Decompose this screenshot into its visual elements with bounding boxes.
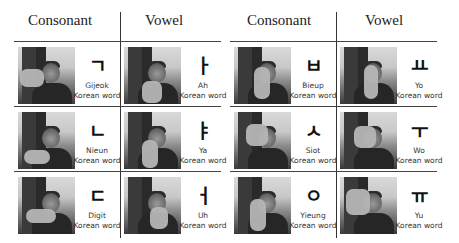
jamo-subtitle: Korean word: [288, 156, 338, 166]
jamo-glyph: ㄴ: [77, 116, 117, 143]
sign-table-left: Consonant Vowel ㄱ Gijeok Korean word ㅏ A…: [14, 0, 221, 243]
sign-table-right: Consonant Vowel ㅂ Bieup Korean word ㅛ Yo…: [230, 0, 437, 243]
sign-photo: [234, 112, 291, 169]
sign-cell-digit: ㄷ Digit Korean word: [14, 171, 118, 235]
sign-photo: [124, 47, 181, 104]
jamo-name: Yo: [396, 81, 442, 91]
jamo-glyph: ㅏ: [183, 51, 223, 78]
jamo-name: Siot: [290, 146, 336, 156]
jamo-name: Digit: [74, 211, 120, 221]
sign-photo: [124, 177, 181, 234]
sign-cell-gijeok: ㄱ Gijeok Korean word: [14, 41, 118, 105]
jamo-name: Ya: [180, 146, 226, 156]
sign-photo: [234, 47, 291, 104]
jamo-subtitle: Korean word: [72, 221, 122, 231]
jamo-subtitle: Korean word: [178, 91, 228, 101]
jamo-subtitle: Korean word: [394, 91, 444, 101]
sign-photo: [340, 177, 397, 234]
jamo-name: Wo: [396, 146, 442, 156]
jamo-glyph: ㄷ: [77, 181, 117, 208]
jamo-subtitle: Korean word: [288, 91, 338, 101]
sign-cell-nieun: ㄴ Nieun Korean word: [14, 106, 118, 170]
jamo-glyph: ㅛ: [399, 51, 439, 78]
jamo-glyph: ㅇ: [293, 181, 333, 208]
sign-photo: [234, 177, 291, 234]
sign-photo: [18, 177, 75, 234]
jamo-name: Gijeok: [74, 81, 120, 91]
jamo-glyph: ㅜ: [399, 116, 439, 143]
jamo-glyph: ㅂ: [293, 51, 333, 78]
sign-photo: [18, 47, 75, 104]
sign-cell-uh: ㅓ Uh Korean word: [120, 171, 224, 235]
jamo-glyph: ㅅ: [293, 116, 333, 143]
jamo-glyph: ㅠ: [399, 181, 439, 208]
header-vowel: Vowel: [365, 12, 403, 29]
jamo-name: Bieup: [290, 81, 336, 91]
sign-cell-yieung: ㅇ Yieung Korean word: [230, 171, 334, 235]
sign-cell-yu: ㅠ Yu Korean word: [336, 171, 440, 235]
jamo-glyph: ㅓ: [183, 181, 223, 208]
sign-photo: [124, 112, 181, 169]
sign-cell-siot: ㅅ Siot Korean word: [230, 106, 334, 170]
sign-cell-bieup: ㅂ Bieup Korean word: [230, 41, 334, 105]
sign-cell-yo: ㅛ Yo Korean word: [336, 41, 440, 105]
sign-cell-wo: ㅜ Wo Korean word: [336, 106, 440, 170]
jamo-name: Nieun: [74, 146, 120, 156]
jamo-subtitle: Korean word: [178, 221, 228, 231]
sign-photo: [18, 112, 75, 169]
sign-photo: [340, 112, 397, 169]
jamo-name: Yu: [396, 211, 442, 221]
sign-cell-ya: ㅑ Ya Korean word: [120, 106, 224, 170]
sign-cell-ah: ㅏ Ah Korean word: [120, 41, 224, 105]
jamo-subtitle: Korean word: [394, 221, 444, 231]
jamo-subtitle: Korean word: [288, 221, 338, 231]
header-consonant: Consonant: [247, 12, 311, 29]
jamo-subtitle: Korean word: [394, 156, 444, 166]
jamo-subtitle: Korean word: [72, 156, 122, 166]
jamo-name: Ah: [180, 81, 226, 91]
jamo-glyph: ㅑ: [183, 116, 223, 143]
header-consonant: Consonant: [28, 12, 92, 29]
jamo-subtitle: Korean word: [178, 156, 228, 166]
jamo-subtitle: Korean word: [72, 91, 122, 101]
jamo-glyph: ㄱ: [77, 51, 117, 78]
header-vowel: Vowel: [145, 12, 183, 29]
jamo-name: Yieung: [290, 211, 336, 221]
jamo-name: Uh: [180, 211, 226, 221]
sign-photo: [340, 47, 397, 104]
